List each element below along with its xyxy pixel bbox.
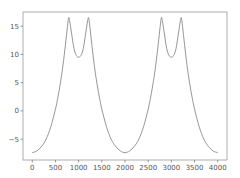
x-tick-label: 4000 <box>209 164 227 172</box>
y-tick-label: 5 <box>15 79 19 87</box>
line-chart: 05001000150020002500300035004000 −505101… <box>0 0 240 178</box>
x-tick-label: 3000 <box>162 164 180 172</box>
plot-frame <box>23 12 227 160</box>
x-axis-ticks: 05001000150020002500300035004000 <box>30 160 227 172</box>
y-axis-ticks: −5051015 <box>9 23 23 144</box>
data-line <box>32 17 217 152</box>
y-tick-label: 10 <box>10 51 19 59</box>
x-tick-label: 2500 <box>139 164 157 172</box>
x-tick-label: 0 <box>30 164 34 172</box>
x-tick-label: 500 <box>49 164 62 172</box>
x-tick-label: 1500 <box>93 164 111 172</box>
x-tick-label: 3500 <box>186 164 204 172</box>
x-tick-label: 1000 <box>70 164 88 172</box>
y-tick-label: 15 <box>10 23 19 31</box>
x-tick-label: 2000 <box>116 164 134 172</box>
y-tick-label: −5 <box>9 136 19 144</box>
y-tick-label: 0 <box>15 107 19 115</box>
